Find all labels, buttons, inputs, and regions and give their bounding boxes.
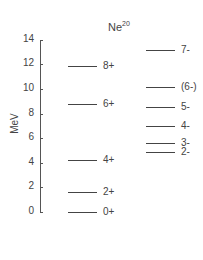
level-label: 3- xyxy=(181,137,190,148)
level-label: 6+ xyxy=(103,98,114,109)
axis-tick xyxy=(40,40,43,41)
axis-tick xyxy=(40,187,43,188)
axis-tick xyxy=(40,163,43,164)
tick-label: 4 xyxy=(14,156,34,167)
level-line xyxy=(146,107,175,108)
tick-label: 10 xyxy=(14,82,34,93)
tick-label: 14 xyxy=(14,33,34,44)
title-superscript: 20 xyxy=(122,20,130,27)
level-line xyxy=(68,212,97,213)
level-line xyxy=(68,104,97,105)
level-label: 0+ xyxy=(103,206,114,217)
axis-tick xyxy=(40,89,43,90)
level-label: 8+ xyxy=(103,60,114,71)
level-line xyxy=(68,160,97,161)
axis-tick xyxy=(40,212,43,213)
level-label: 4- xyxy=(181,120,190,131)
level-label: 5- xyxy=(181,101,190,112)
level-line xyxy=(68,192,97,193)
tick-label: 12 xyxy=(14,57,34,68)
tick-label: 6 xyxy=(14,131,34,142)
axis-tick xyxy=(40,64,43,65)
level-label: (6-) xyxy=(181,81,197,92)
level-line xyxy=(146,152,175,153)
tick-label: 0 xyxy=(14,205,34,216)
tick-label: 8 xyxy=(14,107,34,118)
level-line xyxy=(146,50,175,51)
axis-tick xyxy=(40,114,43,115)
level-line xyxy=(146,87,175,88)
level-label: 4+ xyxy=(103,154,114,165)
level-label: 7- xyxy=(181,44,190,55)
diagram-title: Ne20 xyxy=(108,20,130,33)
tick-label: 2 xyxy=(14,180,34,191)
title-text: Ne xyxy=(108,21,122,33)
level-line xyxy=(146,126,175,127)
axis-tick xyxy=(40,138,43,139)
level-label: 2+ xyxy=(103,186,114,197)
level-line xyxy=(68,66,97,67)
level-line xyxy=(146,143,175,144)
